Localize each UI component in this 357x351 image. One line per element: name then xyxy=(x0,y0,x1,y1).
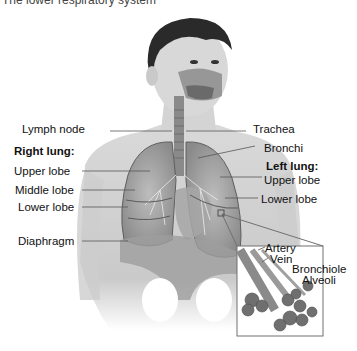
label-alveoli: Alveoli xyxy=(302,274,336,287)
label-diaphragm: Diaphragm xyxy=(18,235,74,248)
label-right-lung-heading: Right lung: xyxy=(14,145,75,158)
label-right-middle-lobe: Middle lobe xyxy=(15,184,74,197)
label-right-lower-lobe: Lower lobe xyxy=(18,201,74,214)
label-lymph-node: Lymph node xyxy=(22,123,85,136)
label-left-lung-heading: Left lung: xyxy=(266,160,318,173)
label-left-lower-lobe: Lower lobe xyxy=(261,193,317,206)
respiratory-diagram: The lower respiratory system xyxy=(0,0,357,351)
label-bronchi: Bronchi xyxy=(264,142,303,155)
label-vein: Vein xyxy=(270,253,292,266)
label-right-upper-lobe: Upper lobe xyxy=(14,165,70,178)
trachea-shape xyxy=(174,96,184,176)
label-left-upper-lobe: Upper lobe xyxy=(264,174,320,187)
label-trachea: Trachea xyxy=(253,123,295,136)
